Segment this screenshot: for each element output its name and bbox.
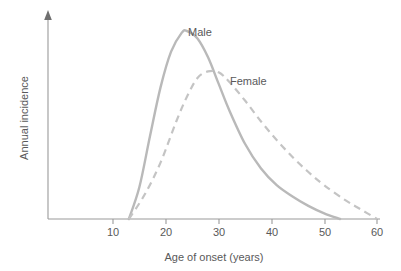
x-tick-label-20: 20 <box>160 226 172 238</box>
x-tick-label-50: 50 <box>319 226 331 238</box>
y-axis-title: Annual incidence <box>18 76 30 160</box>
y-axis-group <box>44 10 52 219</box>
female-incidence-curve <box>129 71 377 219</box>
x-axis-title: Age of onset (years) <box>164 251 263 263</box>
x-tick-label-60: 60 <box>371 226 383 238</box>
incidence-by-age-chart: 10 20 30 40 50 60 Male Female Age of ons… <box>0 0 401 271</box>
x-tick-label-40: 40 <box>266 226 278 238</box>
x-axis-group: 10 20 30 40 50 60 <box>48 219 383 238</box>
male-series-label: Male <box>188 26 212 38</box>
female-series-label: Female <box>230 75 267 87</box>
male-incidence-curve <box>129 30 340 219</box>
x-tick-label-10: 10 <box>107 226 119 238</box>
chart-canvas: 10 20 30 40 50 60 Male Female Age of ons… <box>0 0 401 271</box>
x-tick-label-30: 30 <box>213 226 225 238</box>
y-axis-arrow-icon <box>44 10 52 20</box>
